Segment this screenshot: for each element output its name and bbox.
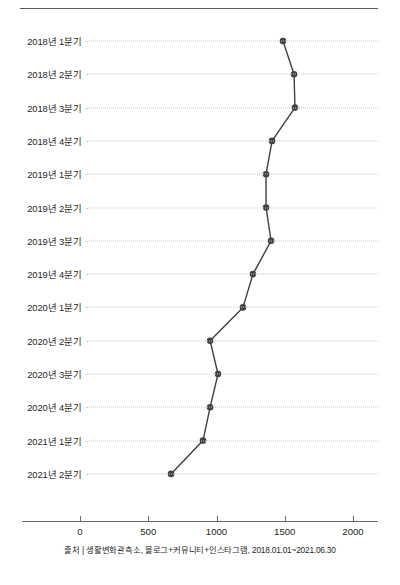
category-label: 2018년 4분기 <box>27 134 82 148</box>
category-label: 2018년 1분기 <box>27 34 82 48</box>
gridline <box>86 473 378 474</box>
source-caption: 출처 | 생활변화관측소, 블로그+커뮤니티+인스타그램, 2018.01.01… <box>0 543 400 555</box>
plot-area: 2018년 1분기2018년 2분기2018년 3분기2018년 4분기2019… <box>0 0 400 510</box>
x-tick-label: 1000 <box>206 526 227 537</box>
category-label: 2018년 2분기 <box>27 67 82 81</box>
category-label: 2019년 4분기 <box>27 267 82 281</box>
x-tick-mark <box>80 516 81 522</box>
gridline <box>86 174 378 175</box>
gridline <box>86 340 378 341</box>
gridline <box>86 41 378 42</box>
series-line <box>171 41 295 474</box>
x-tick-mark <box>353 516 354 522</box>
x-axis-line <box>22 521 378 522</box>
category-label: 2021년 1분기 <box>27 434 82 448</box>
gridline <box>86 240 378 241</box>
gridline <box>86 274 378 275</box>
x-tick-mark <box>285 516 286 522</box>
gridline <box>86 440 378 441</box>
gridline <box>86 307 378 308</box>
category-label: 2019년 3분기 <box>27 234 82 248</box>
x-tick-label: 1500 <box>274 526 295 537</box>
category-label: 2019년 2분기 <box>27 201 82 215</box>
gridline <box>86 74 378 75</box>
chart-container: 2018년 1분기2018년 2분기2018년 3분기2018년 4분기2019… <box>0 0 400 585</box>
gridline <box>86 140 378 141</box>
x-tick-label: 2000 <box>342 526 363 537</box>
category-label: 2020년 4분기 <box>27 400 82 414</box>
gridline <box>86 207 378 208</box>
gridline <box>86 107 378 108</box>
x-tick-label: 0 <box>77 526 82 537</box>
category-label: 2020년 2분기 <box>27 334 82 348</box>
category-label: 2021년 2분기 <box>27 467 82 481</box>
x-tick-mark <box>148 516 149 522</box>
category-label: 2020년 1분기 <box>27 300 82 314</box>
gridline <box>86 407 378 408</box>
x-tick-label: 500 <box>140 526 156 537</box>
gridline <box>86 374 378 375</box>
category-label: 2018년 3분기 <box>27 101 82 115</box>
x-axis: 0500100015002000 출처 | 생활변화관측소, 블로그+커뮤니티+… <box>0 510 400 585</box>
category-label: 2020년 3분기 <box>27 367 82 381</box>
x-tick-mark <box>217 516 218 522</box>
category-label: 2019년 1분기 <box>27 167 82 181</box>
